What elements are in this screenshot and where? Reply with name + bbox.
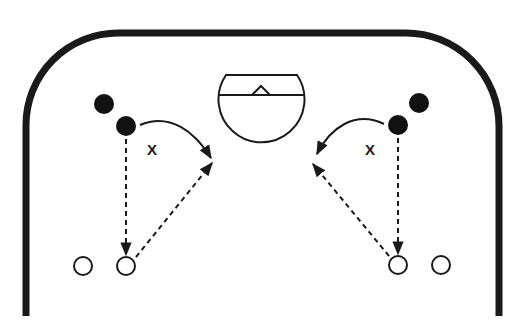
right-group: X — [313, 93, 450, 274]
left-x-label: X — [147, 141, 157, 158]
right-open-spot-inner — [389, 256, 407, 274]
right-player-top — [409, 93, 429, 113]
left-player-top — [94, 94, 114, 114]
right-player-cutter — [388, 115, 408, 135]
hoop-triangle — [252, 86, 270, 95]
left-dashed-diagonal-arrow — [136, 163, 212, 257]
hoop — [219, 75, 306, 142]
left-open-spot-inner — [117, 257, 135, 275]
court-diagram: X X — [0, 0, 523, 334]
right-dashed-diagonal-arrow — [313, 164, 389, 256]
left-group: X — [74, 94, 212, 275]
right-x-label: X — [365, 141, 375, 158]
left-open-spot-outer — [74, 257, 92, 275]
left-player-cutter — [116, 116, 136, 136]
right-open-spot-outer — [432, 256, 450, 274]
